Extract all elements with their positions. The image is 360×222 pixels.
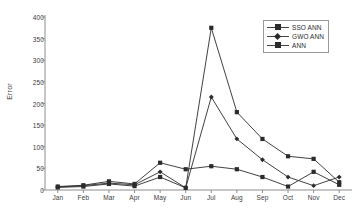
data-point: [286, 175, 291, 180]
x-tick-label: May: [154, 194, 167, 201]
data-point: [311, 183, 316, 188]
data-point: [209, 95, 214, 100]
legend-item-ann: ANN: [267, 41, 324, 50]
legend-label: ANN: [292, 42, 306, 49]
data-point: [81, 183, 85, 187]
x-tick-label: Aug: [231, 194, 243, 201]
data-point: [337, 175, 342, 180]
x-tick-label: Jan: [52, 194, 63, 201]
x-tick-label: Sep: [257, 194, 269, 201]
data-point: [286, 154, 290, 158]
data-point: [56, 184, 60, 188]
data-point: [107, 179, 111, 183]
x-tick-label: Dec: [333, 194, 345, 201]
legend-marker-icon: [267, 23, 289, 32]
legend-item-sso-ann: SSO ANN: [267, 23, 324, 32]
x-tick-label: Mar: [103, 194, 115, 201]
x-tick-label: Apr: [129, 194, 139, 201]
data-point: [184, 167, 188, 171]
x-tick-label: Jul: [207, 194, 216, 201]
legend-marker-icon: [267, 41, 289, 50]
data-point: [132, 182, 136, 186]
legend-item-gwo-ann: GWO ANN: [267, 32, 324, 41]
series-line: [58, 163, 339, 187]
data-point: [158, 175, 162, 179]
data-point: [260, 137, 264, 141]
data-point: [286, 184, 290, 188]
data-point: [235, 167, 239, 171]
x-tick-label: Nov: [308, 194, 320, 201]
data-point: [209, 26, 213, 30]
data-point: [209, 164, 213, 168]
data-point: [158, 169, 163, 174]
data-point: [312, 170, 316, 174]
data-point: [235, 110, 239, 114]
data-point: [260, 175, 264, 179]
data-point: [312, 157, 316, 161]
data-point: [337, 183, 341, 187]
line-chart: Error 400 350 300 250 200 150 100 50 0 J…: [0, 0, 360, 222]
x-tick-label: Jun: [180, 194, 191, 201]
data-point: [158, 161, 162, 165]
chart-legend: SSO ANN GWO ANN ANN: [263, 20, 329, 53]
x-tick-label: Feb: [78, 194, 90, 201]
legend-label: GWO ANN: [292, 33, 324, 40]
legend-label: SSO ANN: [292, 24, 322, 31]
legend-marker-icon: [267, 32, 289, 41]
x-tick-label: Oct: [283, 194, 293, 201]
